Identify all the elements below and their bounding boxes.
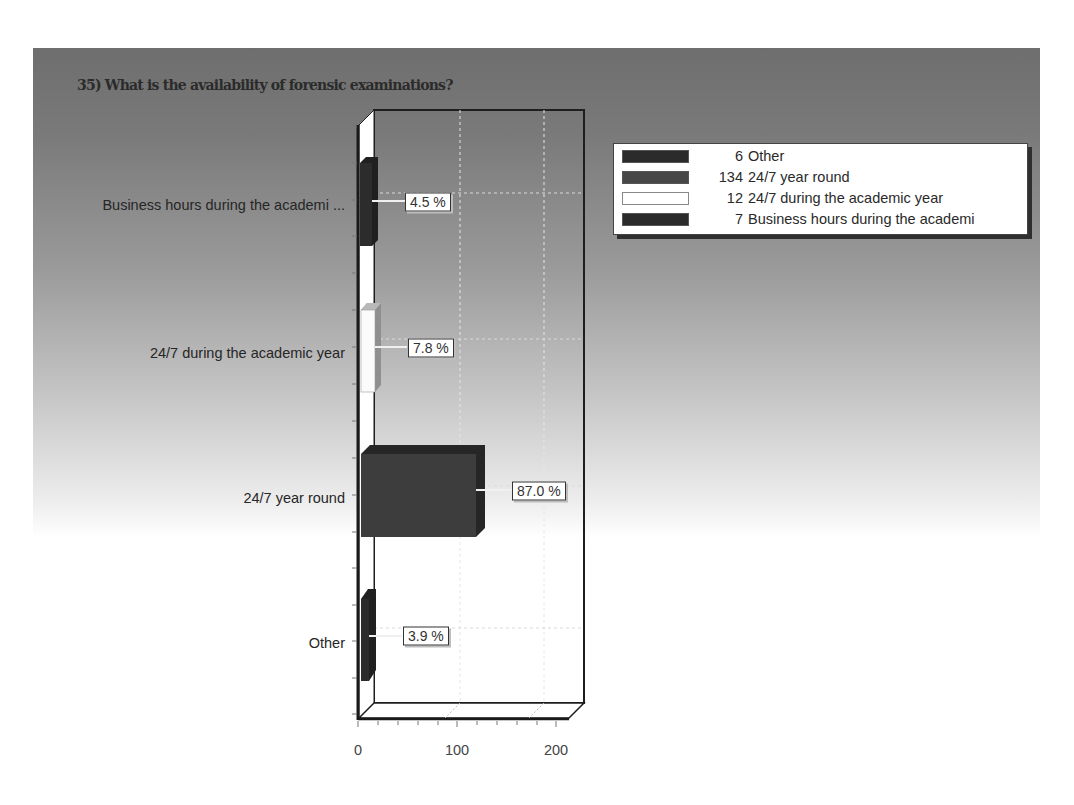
legend-item-business-hours: 7 Business hours during the academi [622, 209, 975, 229]
category-label: 24/7 year round [243, 490, 345, 506]
legend-swatch [622, 150, 689, 163]
data-label-percent: 87.0 % [512, 482, 566, 501]
x-tick-label: 200 [544, 742, 568, 758]
data-label-percent: 7.8 % [408, 339, 454, 358]
data-label-percent: 4.5 % [405, 193, 451, 212]
legend-swatch [622, 171, 689, 184]
bar-year-round[interactable] [361, 445, 512, 537]
category-label: 24/7 during the academic year [150, 345, 345, 361]
legend-item-other: 6 Other [622, 146, 784, 166]
bar-other[interactable] [361, 589, 402, 681]
legend-count: 134 [689, 169, 743, 185]
plot-area [0, 0, 1074, 805]
legend-label: Business hours during the academi [748, 211, 975, 227]
legend-label: Other [748, 148, 784, 164]
bar-business-hours[interactable] [360, 157, 405, 246]
legend-label: 24/7 year round [748, 169, 850, 185]
legend-count: 7 [689, 211, 743, 227]
plot-floor [359, 703, 584, 718]
legend-item-year-round: 134 24/7 year round [622, 167, 850, 187]
x-tick-label: 0 [354, 742, 362, 758]
legend-swatch [622, 192, 689, 205]
bar-academic-year[interactable] [361, 303, 407, 392]
x-tick-label: 100 [445, 742, 469, 758]
legend-swatch [622, 213, 689, 226]
legend-label: 24/7 during the academic year [748, 190, 943, 206]
legend-item-academic-year: 12 24/7 during the academic year [622, 188, 943, 208]
legend-count: 6 [689, 148, 743, 164]
y-axis-ticks [352, 127, 357, 714]
category-label: Business hours during the academi ... [102, 197, 345, 213]
category-label: Other [309, 635, 345, 651]
x-axis-ticks [358, 721, 556, 727]
data-label-percent: 3.9 % [403, 627, 449, 646]
legend: 6 Other 134 24/7 year round 12 24/7 duri… [613, 143, 1028, 235]
legend-count: 12 [689, 190, 743, 206]
